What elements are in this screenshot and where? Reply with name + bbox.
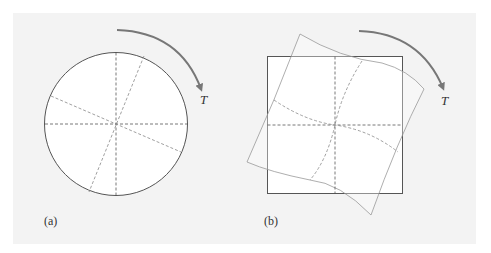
figure-canvas: T (a) T (b) — [0, 0, 491, 253]
panel-label-a: (a) — [44, 214, 57, 228]
panel-label-b: (b) — [264, 214, 278, 228]
torque-label-a: T — [200, 92, 208, 107]
panel-b: T (b) — [247, 31, 449, 228]
panel-a: T (a) — [44, 30, 208, 228]
torque-label-b: T — [441, 93, 449, 108]
